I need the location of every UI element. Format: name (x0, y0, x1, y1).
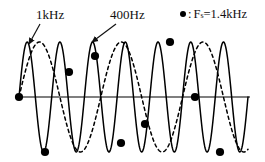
waveform-plot (0, 0, 265, 162)
sample-point (117, 139, 125, 147)
sample-point (191, 93, 199, 101)
sample-point (15, 93, 23, 101)
arrow-to-400hz-wave (92, 24, 116, 42)
legend-colon: : (188, 8, 191, 21)
aliasing-diagram: 1kHz 400Hz : Fs=1.4kHz (0, 0, 265, 162)
legend-subscript: s (200, 12, 203, 20)
arrow-to-1khz-wave (29, 24, 40, 44)
alias-frequency-label: 400Hz (110, 8, 145, 21)
legend-value: =1.4kHz (204, 8, 248, 21)
signal-frequency-label: 1kHz (36, 8, 64, 21)
sample-point (91, 52, 99, 60)
annotation-arrow-group (29, 24, 116, 44)
legend-variable: F (193, 8, 200, 21)
sample-point (65, 68, 73, 76)
legend: : Fs=1.4kHz (180, 8, 247, 21)
sample-point (166, 38, 174, 46)
sample-point (141, 120, 149, 128)
sample-point (41, 148, 49, 156)
legend-dot-icon (180, 11, 186, 17)
sample-point (216, 148, 224, 156)
